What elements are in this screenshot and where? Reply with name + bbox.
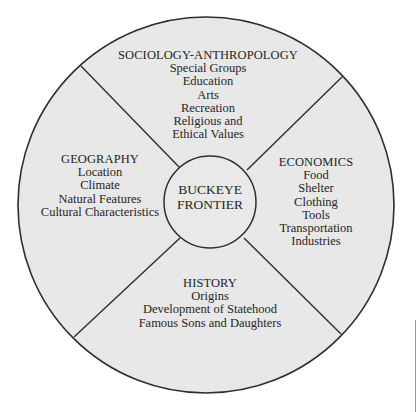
center-hub-label: BUCKEYE FRONTIER (164, 182, 256, 212)
segment-item: Ethical Values (110, 128, 306, 141)
segment-sociology-anthropology: SOCIOLOGY-ANTHROPOLOGY Special Groups Ed… (110, 49, 306, 141)
segment-history: HISTORY Origins Development of Statehood… (130, 277, 290, 330)
segment-item: Development of Statehood (130, 303, 290, 316)
segment-item: Education (110, 75, 306, 88)
segment-economics: ECONOMICS Food Shelter Clothing Tools Tr… (270, 156, 362, 248)
segment-item: Industries (270, 235, 362, 248)
segment-item: Clothing (270, 196, 362, 209)
scan-edge-line (415, 320, 416, 412)
segment-item: Cultural Characteristics (40, 206, 160, 219)
segment-geography: GEOGRAPHY Location Climate Natural Featu… (40, 153, 160, 219)
segment-item: Climate (40, 179, 160, 192)
center-line-1: BUCKEYE (164, 182, 256, 197)
center-line-2: FRONTIER (164, 197, 256, 212)
segment-item: Natural Features (40, 193, 160, 206)
segment-item: Shelter (270, 182, 362, 195)
segment-item: Arts (110, 89, 306, 102)
segment-item: Famous Sons and Daughters (130, 317, 290, 330)
